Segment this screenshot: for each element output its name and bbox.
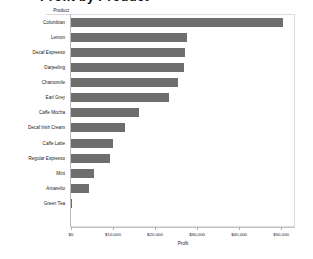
bar-row: Columbian	[0, 15, 313, 30]
value-axis-tick-label: $10,000	[105, 232, 121, 237]
bar-cell	[71, 136, 113, 151]
bar-cell	[71, 196, 72, 211]
bar-cell	[71, 30, 187, 45]
bar[interactable]	[71, 48, 185, 57]
bar-row-label: Lemon	[0, 30, 67, 45]
bar-row-label: Caffe Latte	[0, 136, 67, 151]
value-axis-line	[71, 227, 295, 228]
bar-cell	[71, 151, 110, 166]
bar-row: Green Tea	[0, 196, 313, 211]
value-axis-tick-label: $30,000	[189, 232, 205, 237]
value-axis-tick	[197, 227, 198, 230]
bar[interactable]	[71, 78, 178, 87]
bar-row-label: Earl Grey	[0, 90, 67, 105]
bar[interactable]	[71, 93, 169, 102]
bar[interactable]	[71, 108, 139, 117]
bar-row-label: Decaf Irish Cream	[0, 120, 67, 135]
bar-row-label: Amaretto	[0, 181, 67, 196]
bar-row-label: Regular Espresso	[0, 151, 67, 166]
bar-cell	[71, 15, 283, 30]
bar[interactable]	[71, 139, 113, 148]
chart-title: Profit by Product	[40, 0, 149, 4]
bar-chart: Profit by Product Product ColumbianLemon…	[0, 0, 313, 259]
value-axis-tick	[113, 227, 114, 230]
bar-row-label: Caffe Mocha	[0, 105, 67, 120]
bar[interactable]	[71, 199, 72, 208]
bar[interactable]	[71, 33, 187, 42]
bar-row: Amaretto	[0, 181, 313, 196]
bar-row-label: Decaf Espresso	[0, 45, 67, 60]
bar-row: Mint	[0, 166, 313, 181]
bar-row: Chamomile	[0, 75, 313, 90]
value-axis-tick	[155, 227, 156, 230]
bar-cell	[71, 120, 125, 135]
bar-row: Darjeeling	[0, 60, 313, 75]
bar[interactable]	[71, 184, 89, 193]
bar-cell	[71, 105, 139, 120]
bar-cell	[71, 75, 178, 90]
bar-row-label: Darjeeling	[0, 60, 67, 75]
value-axis-title: Profit	[178, 241, 189, 246]
bar[interactable]	[71, 169, 94, 178]
value-axis-tick-label: $40,000	[231, 232, 247, 237]
bar-row-label: Columbian	[0, 15, 67, 30]
bar-row: Decaf Espresso	[0, 45, 313, 60]
bar-row-label: Green Tea	[0, 196, 67, 211]
bar-cell	[71, 181, 89, 196]
bar-row: Earl Grey	[0, 90, 313, 105]
bar-row: Decaf Irish Cream	[0, 120, 313, 135]
value-axis-tick-label: $20,000	[147, 232, 163, 237]
bar-cell	[71, 45, 185, 60]
value-axis-tick	[239, 227, 240, 230]
bar[interactable]	[71, 63, 184, 72]
value-axis-tick	[71, 227, 72, 230]
bar-cell	[71, 166, 94, 181]
bar[interactable]	[71, 154, 110, 163]
bar-row-label: Chamomile	[0, 75, 67, 90]
bar-row-label: Mint	[0, 166, 67, 181]
bar[interactable]	[71, 18, 283, 27]
value-axis-tick-label: $0	[69, 232, 74, 237]
bar-row: Regular Espresso	[0, 151, 313, 166]
value-axis-tick-label: $50,000	[273, 232, 289, 237]
bar[interactable]	[71, 123, 125, 132]
bar-row: Lemon	[0, 30, 313, 45]
bar-cell	[71, 60, 184, 75]
bar-row: Caffe Mocha	[0, 105, 313, 120]
bar-row: Caffe Latte	[0, 136, 313, 151]
bar-rows: ColumbianLemonDecaf EspressoDarjeelingCh…	[0, 15, 313, 226]
value-axis-tick	[281, 227, 282, 230]
bar-cell	[71, 90, 169, 105]
category-axis-title: Product	[0, 8, 69, 13]
